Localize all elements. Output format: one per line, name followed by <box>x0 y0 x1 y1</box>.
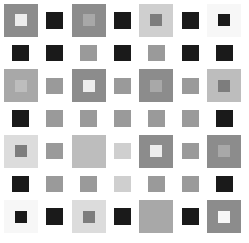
grid-cell-r0-c3 <box>106 4 140 37</box>
vertical-connector-chip <box>216 176 233 192</box>
grid-cell-r6-c6 <box>207 200 241 233</box>
grid-cell-r3-c2 <box>72 102 106 135</box>
grid-cell-r4-c4 <box>139 135 173 168</box>
grid-cell-r1-c5 <box>173 37 207 70</box>
inner-square <box>83 14 95 26</box>
inner-square <box>83 80 95 92</box>
inner-square <box>218 14 230 26</box>
grid-cell-r6-c1 <box>38 200 72 233</box>
grid-cell-r0-c6 <box>207 4 241 37</box>
vertical-connector-cell <box>207 37 241 70</box>
outer-square <box>72 135 106 168</box>
inner-square <box>150 14 162 26</box>
grid-cell-r2-c6 <box>207 69 241 102</box>
grid-cell-r4-c5 <box>173 135 207 168</box>
connector-cell <box>38 37 72 70</box>
horizontal-connector-cell <box>38 69 72 102</box>
horizontal-connector-chip <box>46 78 63 94</box>
vertical-connector-chip <box>80 45 97 61</box>
grid-cell-r2-c2 <box>72 69 106 102</box>
vertical-connector-cell <box>139 168 173 201</box>
connector-chip <box>114 176 131 192</box>
vertical-connector-chip <box>216 45 233 61</box>
outer-square <box>139 135 173 168</box>
outer-square <box>4 69 38 102</box>
horizontal-connector-cell <box>38 135 72 168</box>
grid-cell-r0-c4 <box>139 4 173 37</box>
outer-square <box>4 4 38 37</box>
horizontal-connector-cell <box>173 135 207 168</box>
connector-cell <box>106 102 140 135</box>
vertical-connector-chip <box>80 110 97 126</box>
connector-cell <box>173 37 207 70</box>
horizontal-connector-chip <box>46 208 63 224</box>
horizontal-connector-cell <box>106 135 140 168</box>
outer-square <box>72 4 106 37</box>
horizontal-connector-cell <box>173 200 207 233</box>
connector-cell <box>38 168 72 201</box>
grid-cell-r3-c6 <box>207 102 241 135</box>
grid-cell-r3-c1 <box>38 102 72 135</box>
connector-cell <box>173 102 207 135</box>
horizontal-connector-chip <box>114 12 131 28</box>
connector-cell <box>106 168 140 201</box>
grid-cell-r5-c2 <box>72 168 106 201</box>
outer-square <box>139 4 173 37</box>
grid-cell-r6-c2 <box>72 200 106 233</box>
vertical-connector-chip <box>80 176 97 192</box>
inner-square <box>15 211 27 223</box>
horizontal-connector-cell <box>173 4 207 37</box>
inner-square <box>218 211 230 223</box>
connector-chip <box>46 45 63 61</box>
outer-square <box>139 200 173 233</box>
connector-cell <box>173 168 207 201</box>
grid-cell-r4-c0 <box>4 135 38 168</box>
inner-square <box>15 14 27 26</box>
connector-chip <box>46 176 63 192</box>
connector-cell <box>38 102 72 135</box>
grid-cell-r5-c5 <box>173 168 207 201</box>
horizontal-connector-chip <box>182 12 199 28</box>
grid-cell-r1-c0 <box>4 37 38 70</box>
grid-cell-r1-c3 <box>106 37 140 70</box>
grid-cell-r5-c4 <box>139 168 173 201</box>
square-pattern-grid <box>4 4 241 233</box>
outer-square <box>207 4 241 37</box>
connector-chip <box>46 110 63 126</box>
connector-chip <box>182 176 199 192</box>
grid-cell-r4-c3 <box>106 135 140 168</box>
grid-cell-r2-c3 <box>106 69 140 102</box>
horizontal-connector-chip <box>46 12 63 28</box>
grid-cell-r5-c0 <box>4 168 38 201</box>
vertical-connector-cell <box>139 102 173 135</box>
outer-square <box>4 200 38 233</box>
grid-cell-r5-c6 <box>207 168 241 201</box>
grid-cell-r0-c2 <box>72 4 106 37</box>
grid-cell-r3-c3 <box>106 102 140 135</box>
grid-cell-r2-c1 <box>38 69 72 102</box>
horizontal-connector-cell <box>38 200 72 233</box>
grid-cell-r6-c4 <box>139 200 173 233</box>
grid-cell-r3-c4 <box>139 102 173 135</box>
grid-cell-r1-c1 <box>38 37 72 70</box>
horizontal-connector-cell <box>106 4 140 37</box>
vertical-connector-cell <box>4 168 38 201</box>
outer-square <box>207 135 241 168</box>
grid-cell-r4-c6 <box>207 135 241 168</box>
grid-cell-r0-c1 <box>38 4 72 37</box>
vertical-connector-chip <box>148 45 165 61</box>
grid-cell-r6-c5 <box>173 200 207 233</box>
vertical-connector-cell <box>4 37 38 70</box>
inner-square <box>218 145 230 157</box>
inner-square <box>15 145 27 157</box>
grid-cell-r1-c6 <box>207 37 241 70</box>
vertical-connector-chip <box>12 45 29 61</box>
horizontal-connector-cell <box>173 69 207 102</box>
horizontal-connector-chip <box>114 143 131 159</box>
vertical-connector-cell <box>72 102 106 135</box>
connector-chip <box>114 110 131 126</box>
inner-square <box>83 145 95 157</box>
connector-cell <box>106 37 140 70</box>
inner-square <box>150 80 162 92</box>
grid-cell-r1-c2 <box>72 37 106 70</box>
